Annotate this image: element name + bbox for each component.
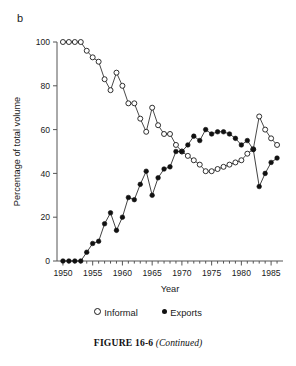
filled-circle-marker — [257, 184, 262, 189]
open-circle-marker — [132, 101, 137, 106]
open-circle-marker — [66, 40, 71, 45]
x-axis-title: Year — [161, 284, 180, 294]
open-circle-marker — [150, 105, 155, 110]
open-circle-marker — [108, 88, 113, 93]
open-circle-marker — [263, 127, 268, 132]
filled-circle-marker — [245, 138, 250, 143]
series-exports — [61, 127, 280, 263]
filled-circle-marker — [186, 143, 191, 148]
open-circle-marker — [191, 158, 196, 163]
filled-circle-marker — [275, 156, 280, 161]
filled-circle-marker — [239, 143, 244, 148]
chart-legend: Informal Exports — [0, 307, 296, 318]
filled-circle-marker — [120, 215, 125, 220]
legend-label-exports: Exports — [170, 308, 202, 318]
y-axis-title: Percentage of total volume — [12, 97, 22, 206]
open-circle-marker — [90, 55, 95, 60]
filled-circle-marker — [108, 211, 113, 216]
filled-circle-marker — [197, 138, 202, 143]
filled-circle-marker — [90, 241, 95, 246]
filled-circle-marker — [73, 259, 78, 264]
series-line-exports — [63, 130, 277, 261]
filled-circle-marker — [168, 165, 173, 170]
plot-area: 0204060801001950195519601965197019751980… — [0, 0, 296, 300]
x-tick-label: 1970 — [172, 268, 191, 278]
open-circle-marker — [185, 153, 190, 158]
open-circle-marker — [203, 169, 208, 174]
y-tick-label: 0 — [45, 256, 50, 266]
open-circle-marker — [60, 40, 65, 45]
data-series — [60, 40, 279, 264]
legend-label-informal: Informal — [104, 308, 138, 318]
open-circle-marker — [168, 131, 173, 136]
figure-continued-note: (Continued) — [156, 337, 202, 348]
y-tick-label: 100 — [36, 37, 51, 47]
filled-circle-marker — [215, 129, 220, 134]
open-circle-marker — [233, 160, 238, 165]
filled-circle-marker — [209, 132, 214, 137]
filled-circle-marker-icon — [162, 309, 167, 314]
filled-circle-marker — [84, 250, 89, 255]
filled-circle-marker — [174, 149, 179, 154]
line-chart: 0204060801001950195519601965197019751980… — [0, 0, 296, 300]
filled-circle-marker — [191, 134, 196, 139]
open-circle-marker — [162, 131, 167, 136]
open-circle-marker — [72, 40, 77, 45]
open-circle-marker — [215, 167, 220, 172]
filled-circle-marker — [162, 167, 167, 172]
filled-circle-marker — [144, 169, 149, 174]
axis-labels: 0204060801001950195519601965197019751980… — [12, 37, 281, 294]
open-circle-marker — [126, 101, 131, 106]
open-circle-marker — [239, 158, 244, 163]
open-circle-marker — [209, 169, 214, 174]
x-tick-label: 1980 — [232, 268, 251, 278]
open-circle-marker — [96, 59, 101, 64]
filled-circle-marker — [126, 195, 131, 200]
open-circle-marker — [227, 162, 232, 167]
open-circle-marker — [257, 114, 262, 119]
figure-caption: FIGURE 16-6 (Continued) — [0, 337, 296, 348]
y-tick-label: 60 — [40, 125, 50, 135]
y-tick-label: 20 — [40, 212, 50, 222]
filled-circle-marker — [78, 259, 83, 264]
filled-circle-marker — [102, 221, 107, 226]
open-circle-marker — [156, 123, 161, 128]
open-circle-marker-icon — [94, 308, 101, 315]
filled-circle-marker — [269, 160, 274, 165]
x-tick-label: 1975 — [202, 268, 221, 278]
figure-number: FIGURE 16-6 — [94, 337, 154, 348]
filled-circle-marker — [67, 259, 72, 264]
y-tick-label: 40 — [40, 169, 50, 179]
series-informal — [60, 40, 279, 174]
filled-circle-marker — [138, 182, 143, 187]
open-circle-marker — [221, 164, 226, 169]
open-circle-marker — [138, 116, 143, 121]
filled-circle-marker — [114, 228, 119, 233]
legend-item-informal: Informal — [94, 307, 138, 318]
open-circle-marker — [144, 129, 149, 134]
y-tick-label: 80 — [40, 81, 50, 91]
x-tick-label: 1965 — [143, 268, 162, 278]
open-circle-marker — [114, 70, 119, 75]
open-circle-marker — [102, 77, 107, 82]
filled-circle-marker — [221, 129, 226, 134]
open-circle-marker — [173, 142, 178, 147]
open-circle-marker — [269, 136, 274, 141]
filled-circle-marker — [61, 259, 66, 264]
figure-panel-b: b 02040608010019501955196019651970197519… — [0, 0, 296, 366]
filled-circle-marker — [96, 239, 101, 244]
x-tick-label: 1950 — [53, 268, 72, 278]
open-circle-marker — [275, 142, 280, 147]
x-tick-label: 1985 — [262, 268, 281, 278]
filled-circle-marker — [251, 147, 256, 152]
filled-circle-marker — [150, 193, 155, 198]
open-circle-marker — [120, 83, 125, 88]
legend-item-exports: Exports — [162, 307, 202, 318]
filled-circle-marker — [132, 197, 137, 202]
filled-circle-marker — [156, 175, 161, 180]
x-tick-label: 1955 — [83, 268, 102, 278]
open-circle-marker — [245, 151, 250, 156]
filled-circle-marker — [227, 132, 232, 137]
filled-circle-marker — [233, 136, 238, 141]
open-circle-marker — [84, 48, 89, 53]
